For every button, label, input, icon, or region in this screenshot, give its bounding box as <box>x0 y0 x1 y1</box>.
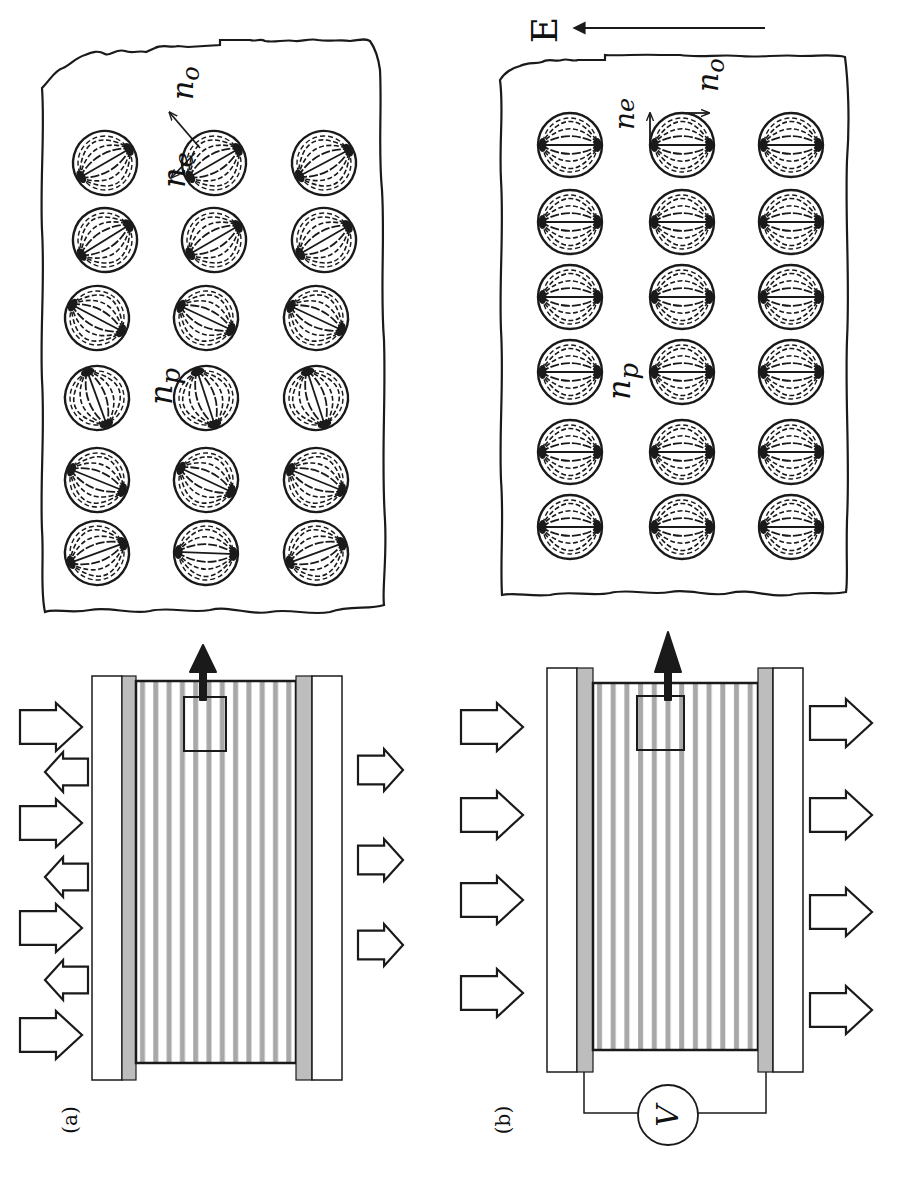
lc-droplet <box>538 340 602 404</box>
panel-b-inset <box>500 55 848 596</box>
transmitted-light-arrow <box>810 986 872 1034</box>
lc-droplet <box>650 113 714 177</box>
incident-light-arrow <box>20 703 82 751</box>
transmitted-light-arrow <box>810 888 872 936</box>
lc-layer-b <box>593 683 758 1050</box>
lc-droplet <box>759 340 823 404</box>
lc-layer-a <box>136 681 296 1063</box>
lc-droplet <box>538 265 602 329</box>
lc-droplet <box>759 113 823 177</box>
electrode-right-a <box>296 676 312 1080</box>
glass-substrate-left-b <box>547 668 577 1072</box>
np-label-b: n <box>600 379 638 400</box>
lc-droplet <box>759 495 823 559</box>
np-label-a: n <box>142 384 180 405</box>
ne-sub-b: e <box>612 98 640 112</box>
transmitted-light-arrow <box>358 924 403 966</box>
incident-light-arrow <box>461 791 523 839</box>
ne-sub-a: e <box>169 152 199 167</box>
glass-substrate-right-b <box>773 668 803 1072</box>
incident-light-arrow <box>461 703 523 751</box>
no-sub-b: o <box>702 58 730 72</box>
incident-light-arrow <box>20 1011 82 1059</box>
lc-droplet <box>538 420 602 484</box>
pdlc-diagram: (a) (b) V E np ne no np ne no <box>0 0 913 1185</box>
circuit-wire-right <box>698 1072 766 1113</box>
incident-light-arrow <box>461 969 523 1017</box>
voltage-label: V <box>650 1102 685 1127</box>
panel-label-a: (a) <box>58 1106 82 1134</box>
glass-substrate-right-a <box>312 676 342 1080</box>
electrode-left-b <box>577 668 593 1072</box>
transmitted-light-arrow <box>810 791 872 839</box>
panel-a-device <box>20 645 403 1080</box>
lc-droplet <box>538 495 602 559</box>
circuit-wire <box>584 1072 638 1113</box>
transmitted-light-arrow <box>358 839 403 881</box>
lc-droplet <box>650 340 714 404</box>
svg-text:ne: ne <box>608 98 641 130</box>
incident-light-arrow <box>461 876 523 924</box>
field-label: E <box>524 17 565 43</box>
lc-droplet <box>650 420 714 484</box>
scattered-light-arrow <box>45 857 88 897</box>
lc-droplet <box>538 113 602 177</box>
incident-light-arrow <box>20 904 82 952</box>
lc-droplet <box>759 190 823 254</box>
electrode-right-b <box>758 668 773 1072</box>
panel-a-inset <box>42 39 386 613</box>
panel-label-b: (b) <box>491 1106 515 1134</box>
electrode-left-a <box>122 676 136 1080</box>
lc-droplet <box>538 190 602 254</box>
ne-label-a: n <box>155 167 193 188</box>
np-sub-a: p <box>156 367 186 384</box>
panel-b-device <box>461 632 872 1145</box>
transmitted-light-arrow <box>810 699 872 747</box>
scattered-light-arrow <box>45 960 88 1000</box>
lc-droplet <box>759 265 823 329</box>
transmitted-light-arrow <box>358 749 403 791</box>
no-label-b: n <box>690 73 725 92</box>
lc-droplet <box>759 420 823 484</box>
lc-droplet <box>173 520 239 586</box>
no-label-a: n <box>165 81 200 100</box>
lc-droplet <box>650 190 714 254</box>
lc-droplet <box>650 265 714 329</box>
incident-light-arrow <box>20 799 82 847</box>
np-sub-b: p <box>614 362 644 379</box>
no-sub-a: o <box>177 66 205 80</box>
ne-label-b: n <box>608 112 641 130</box>
glass-substrate-left-a <box>92 676 122 1080</box>
lc-droplet <box>650 495 714 559</box>
scattered-light-arrow <box>45 752 88 792</box>
